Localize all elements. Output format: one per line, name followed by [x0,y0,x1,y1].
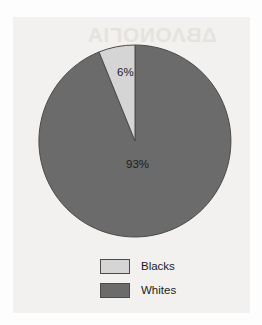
legend-label-blacks: Blacks [141,260,175,272]
legend-item-whites[interactable]: Whites [100,279,210,301]
legend-label-whites: Whites [141,284,176,296]
pie-label-whites: 93% [126,158,149,170]
legend-item-blacks[interactable]: Blacks [100,255,210,277]
legend-swatch-blacks [100,259,130,274]
pie-label-blacks: 6% [117,66,134,78]
chart-legend: Blacks Whites [100,255,210,303]
chart-figure: ΔΒΛΟΝΟΓΙΑ 6% 93% Blacks Whites [13,17,250,313]
legend-swatch-whites [100,283,130,298]
